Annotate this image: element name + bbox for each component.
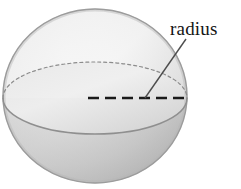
sphere-radius-figure: radius bbox=[0, 0, 241, 189]
sphere-body bbox=[3, 9, 187, 183]
radius-label: radius bbox=[170, 18, 218, 39]
